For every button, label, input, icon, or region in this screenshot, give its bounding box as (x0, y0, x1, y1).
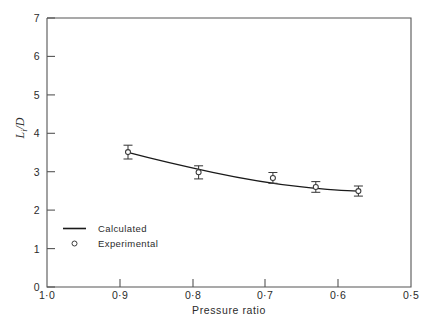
y-axis-title-denom: /D (13, 117, 27, 130)
legend: Calculated Experimental (63, 223, 158, 249)
line-chart: 0 1 2 3 4 5 6 7 1·0 0·9 0·8 0·7 0·6 0·5 … (0, 0, 429, 323)
svg-text:Li/D: Li/D (13, 117, 29, 139)
x-axis-title: Pressure ratio (192, 304, 266, 316)
y-tick-label: 2 (34, 204, 40, 216)
x-tick-label: 0·5 (403, 289, 419, 301)
x-tick-labels: 1·0 0·9 0·8 0·7 0·6 0·5 (39, 289, 419, 301)
y-axis-ticks (47, 18, 55, 287)
y-tick-label: 5 (34, 89, 40, 101)
y-tick-label: 6 (34, 50, 40, 62)
y-axis-title: Li/D (13, 117, 29, 139)
legend-label-experimental: Experimental (98, 238, 158, 249)
experimental-points (124, 145, 363, 196)
error-bar (311, 182, 320, 193)
x-tick-label: 0·6 (330, 289, 346, 301)
error-bar (268, 173, 277, 184)
x-tick-label: 1·0 (39, 289, 55, 301)
y-tick-label: 4 (34, 127, 40, 139)
x-axis-ticks (120, 279, 338, 287)
x-tick-label: 0·8 (185, 289, 201, 301)
y-tick-label: 3 (34, 166, 40, 178)
y-tick-label: 1 (34, 243, 40, 255)
legend-circle-marker (72, 241, 77, 246)
chart-figure: 0 1 2 3 4 5 6 7 1·0 0·9 0·8 0·7 0·6 0·5 … (0, 0, 429, 323)
calculated-curve (127, 152, 358, 191)
legend-label-calculated: Calculated (98, 223, 147, 234)
error-bar (194, 166, 203, 179)
y-tick-label: 7 (34, 12, 40, 24)
x-tick-label: 0·9 (112, 289, 128, 301)
y-tick-labels: 0 1 2 3 4 5 6 7 (34, 12, 40, 293)
x-tick-label: 0·7 (257, 289, 273, 301)
error-bar (124, 145, 133, 159)
